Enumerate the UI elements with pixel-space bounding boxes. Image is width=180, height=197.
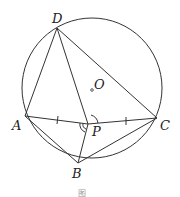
label-O: O (94, 77, 105, 92)
center-point-O (91, 89, 94, 92)
segment-BC (78, 118, 157, 163)
angle-arc-APB-inner (83, 124, 86, 130)
segment-AB (25, 116, 78, 163)
geometry-diagram: D O A C P B 图 (0, 0, 180, 197)
angle-arc-DPC (91, 115, 98, 123)
tick-mark-AP (57, 116, 58, 124)
segment-AP (25, 116, 88, 124)
label-D: D (51, 11, 63, 26)
label-A: A (11, 118, 21, 133)
segment-DA (25, 28, 57, 116)
caption: 图 (78, 189, 86, 197)
label-C: C (160, 118, 170, 133)
label-B: B (71, 166, 82, 181)
diagram-svg: D O A C P B 图 (0, 0, 180, 197)
label-P: P (91, 124, 101, 139)
